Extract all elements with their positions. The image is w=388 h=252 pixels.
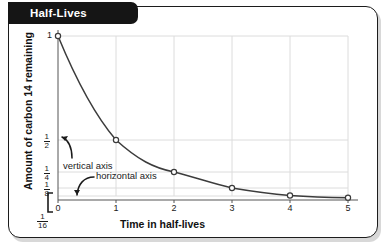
data-point <box>55 33 60 38</box>
data-point <box>287 193 292 198</box>
x-tick-label-5: 5 <box>341 203 355 213</box>
fraction-one-half: 1 2 <box>44 133 50 150</box>
x-tick-label-4: 4 <box>283 203 297 213</box>
fraction-one-sixteenth: 1 16 <box>37 213 48 230</box>
annotation-horizontal-axis: horizontal axis <box>96 170 157 181</box>
y-tick-label-one-sixteenth: 1 16 <box>32 213 48 230</box>
plot-area: Amount of carbon 14 remaining Time in ha… <box>0 0 388 252</box>
fraction-one-eighth: 1 8 <box>44 181 50 198</box>
x-tick-label-0: 0 <box>51 203 65 213</box>
x-tick-label-2: 2 <box>167 203 181 213</box>
data-point <box>171 169 176 174</box>
x-tick-label-3: 3 <box>225 203 239 213</box>
title-banner: Half-Lives <box>8 2 138 24</box>
y-axis-title: Amount of carbon 14 remaining <box>22 21 34 201</box>
vertical-axis-arrow <box>62 136 72 158</box>
page-title: Half-Lives <box>8 7 87 19</box>
chart-figure: Half-Lives <box>0 0 388 252</box>
y-tick-label-one-eighth: 1 8 <box>34 181 50 198</box>
data-point <box>345 195 350 200</box>
y-tick-text: 1 <box>47 30 52 40</box>
horizontal-axis-arrow <box>74 177 94 195</box>
y-tick-label-1: 1 <box>36 30 52 40</box>
data-point <box>229 185 234 190</box>
data-point <box>113 137 118 142</box>
x-tick-label-1: 1 <box>109 203 123 213</box>
chart-svg <box>0 0 388 252</box>
x-axis-title: Time in half-lives <box>120 218 205 230</box>
y-tick-label-one-half: 1 2 <box>34 133 50 150</box>
